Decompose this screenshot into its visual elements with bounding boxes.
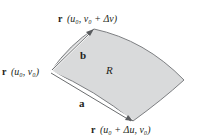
- vector-b-label: b: [80, 49, 86, 61]
- corner-bottom-label: r (u₀ + Δu, v₀): [91, 124, 151, 135]
- corner-origin-label: r (u₀, v₀): [2, 66, 40, 78]
- surface-region: [51, 29, 184, 121]
- region-label: R: [105, 64, 113, 76]
- corner-top-label: r (u₀, v₀ + Δv): [58, 13, 118, 25]
- surface-patch-diagram: r (u₀, v₀ + Δv) r (u₀, v₀) r (u₀ + Δu, v…: [0, 0, 201, 135]
- vector-a-label: a: [79, 97, 85, 109]
